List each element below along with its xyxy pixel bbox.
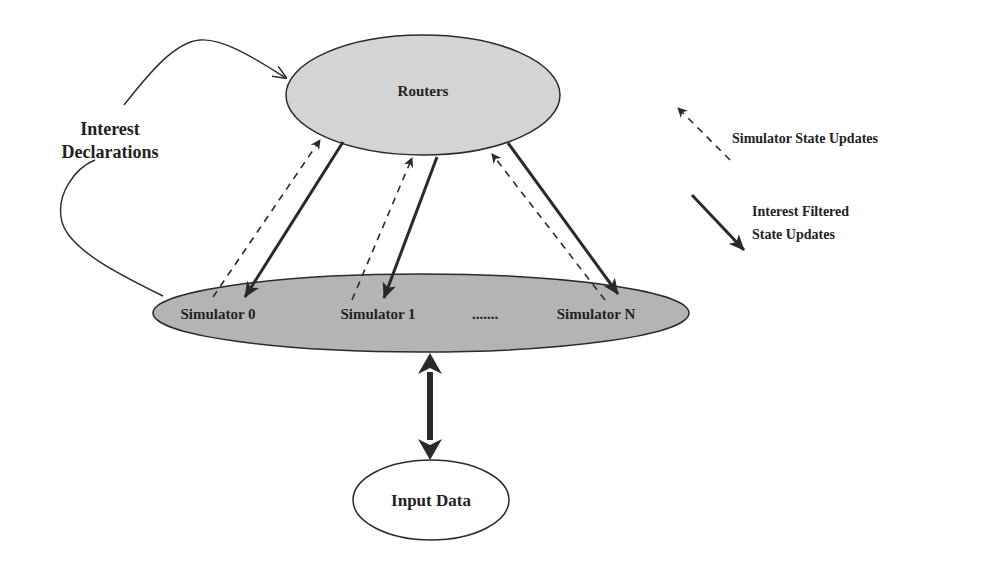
solid-arrow-routers-to-sim0 bbox=[245, 142, 343, 297]
simulators-ellipsis: ....... bbox=[472, 306, 499, 322]
simulator-1-label: Simulator 1 bbox=[340, 306, 415, 322]
routers-node: Routers bbox=[286, 35, 560, 155]
legend-label-interest-filtered-line2: State Updates bbox=[752, 227, 835, 242]
dashed-arrow-icon bbox=[678, 108, 730, 160]
input-data-node: Input Data bbox=[353, 460, 509, 540]
system-architecture-diagram: Interest Declarations Routers Simulator … bbox=[0, 0, 987, 569]
legend-label-interest-filtered-line1: Interest Filtered bbox=[752, 204, 849, 219]
input-data-label: Input Data bbox=[391, 491, 471, 510]
arrowhead-down-icon bbox=[418, 439, 442, 460]
legend: Simulator State Updates Interest Filtere… bbox=[678, 108, 879, 250]
simulator-0-label: Simulator 0 bbox=[180, 306, 255, 322]
solid-arrow-routers-to-simn bbox=[508, 143, 618, 294]
interest-declarations-label-line1: Interest bbox=[80, 119, 140, 139]
interest-declarations-label-line2: Declarations bbox=[62, 142, 159, 162]
arrowhead-up-icon bbox=[418, 353, 442, 374]
simulator-n-label: Simulator N bbox=[557, 306, 636, 322]
solid-arrow-icon bbox=[692, 195, 744, 250]
simulators-node: Simulator 0 Simulator 1 ....... Simulato… bbox=[153, 274, 689, 352]
dashed-arrow-sim0-to-routers bbox=[213, 140, 320, 297]
interest-declarations-edge: Interest Declarations bbox=[61, 40, 286, 296]
legend-label-simulator-state-updates: Simulator State Updates bbox=[732, 131, 879, 146]
routers-label: Routers bbox=[398, 83, 449, 99]
legend-item-simulator-state-updates: Simulator State Updates bbox=[678, 108, 879, 160]
legend-item-interest-filtered-state-updates: Interest Filtered State Updates bbox=[692, 195, 849, 250]
input-data-double-arrow bbox=[418, 353, 442, 460]
